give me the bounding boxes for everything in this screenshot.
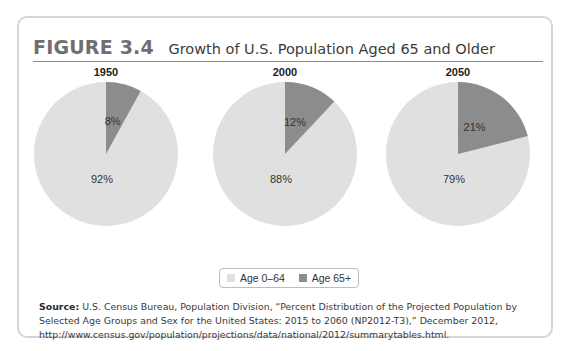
pie-chart-1950: 1950 8%92% — [31, 65, 181, 227]
source-label: Source: — [39, 301, 79, 312]
figure-card: FIGURE 3.4 Growth of U.S. Population Age… — [17, 16, 553, 338]
pie-chart-2050: 2050 21%79% — [383, 65, 533, 227]
pie-chart-2000: 2000 12%88% — [210, 65, 360, 227]
chart-legend: Age 0–64 Age 65+ — [219, 268, 359, 288]
pie-label-age-0-64: 88% — [270, 173, 292, 185]
legend-swatch-light — [227, 274, 235, 282]
pie-graphic: 21%79% — [385, 81, 531, 227]
pie-label-age-65-plus: 8% — [105, 115, 121, 127]
figure-header: FIGURE 3.4 Growth of U.S. Population Age… — [33, 36, 495, 58]
pie-label-age-0-64: 79% — [443, 173, 465, 185]
figure-title: Growth of U.S. Population Aged 65 and Ol… — [168, 41, 494, 57]
legend-item-age-65-plus: Age 65+ — [299, 272, 351, 284]
source-text: U.S. Census Bureau, Population Division,… — [39, 301, 517, 340]
figure-number: FIGURE 3.4 — [33, 36, 154, 58]
pie-year-label: 2000 — [210, 65, 360, 79]
pie-graphic: 12%88% — [212, 81, 358, 227]
pie-year-label: 2050 — [383, 65, 533, 79]
pie-graphic: 8%92% — [33, 81, 179, 227]
legend-item-age-0-64: Age 0–64 — [227, 272, 285, 284]
legend-swatch-dark — [299, 274, 307, 282]
pie-label-age-65-plus: 12% — [284, 116, 306, 128]
title-divider — [33, 61, 543, 62]
pie-label-age-0-64: 92% — [91, 173, 113, 185]
legend-label: Age 0–64 — [240, 272, 285, 284]
pie-year-label: 1950 — [31, 65, 181, 79]
source-note: Source: U.S. Census Bureau, Population D… — [39, 300, 549, 342]
legend-label: Age 65+ — [312, 272, 351, 284]
pie-label-age-65-plus: 21% — [464, 121, 486, 133]
